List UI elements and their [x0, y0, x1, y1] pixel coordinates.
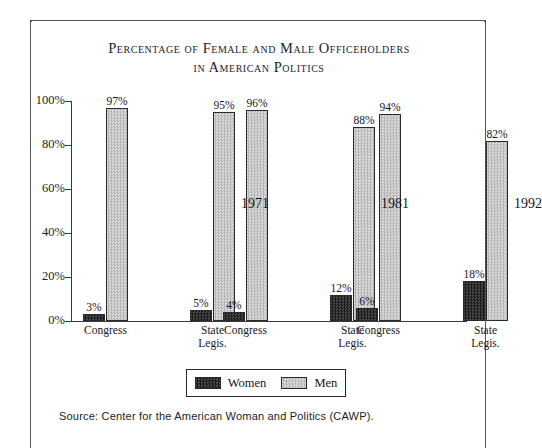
y-axis-tick-label: 100% [5, 93, 65, 108]
y-axis-tick [65, 101, 71, 102]
bar-women: 4% [223, 312, 245, 321]
y-axis-tick-label: 40% [5, 225, 65, 240]
bar-value-label: 97% [106, 95, 127, 107]
y-axis-tick [65, 321, 71, 322]
bar-value-label: 88% [353, 114, 374, 126]
y-axis-tick [65, 145, 71, 146]
y-axis-tick [65, 277, 71, 278]
x-axis-category-label: State Legis. [446, 324, 526, 350]
bar-value-label: 3% [86, 301, 101, 313]
bar-women: 3% [83, 314, 105, 321]
x-axis-category-label: Congress [66, 324, 146, 337]
bar-women: 5% [190, 310, 212, 321]
bar-women: 12% [330, 295, 352, 321]
legend-swatch-men [281, 377, 307, 389]
legend-label-women: Women [228, 376, 267, 391]
bar-value-label: 5% [193, 297, 208, 309]
y-axis-tick [65, 189, 71, 190]
bar-value-label: 4% [226, 299, 241, 311]
legend-label-men: Men [314, 376, 337, 391]
bar-value-label: 6% [359, 295, 374, 307]
bar-men: 88% [353, 127, 375, 321]
chart-frame: Percentage of Female and Male Officehold… [30, 20, 486, 448]
y-axis-line [71, 101, 72, 322]
bar-men: 97% [106, 108, 128, 321]
legend-item-men: Men [281, 376, 337, 391]
y-axis-tick [65, 233, 71, 234]
bar-women: 6% [356, 308, 378, 321]
bar-women: 18% [463, 281, 485, 321]
bar-men: 95% [213, 112, 235, 321]
bar-value-label: 96% [246, 97, 267, 109]
x-axis-category-label: Congress [339, 324, 419, 337]
chart-title: Percentage of Female and Male Officehold… [31, 39, 487, 77]
year-label: 1981 [381, 196, 409, 212]
y-axis-tick-label: 0% [5, 313, 65, 328]
bar-value-label: 12% [330, 282, 351, 294]
legend-swatch-women [195, 377, 221, 389]
x-axis-category-label: Congress [206, 324, 286, 337]
bar-value-label: 18% [463, 268, 484, 280]
bar-men: 82% [486, 141, 508, 321]
legend-item-women: Women [195, 376, 267, 391]
year-label: 1971 [241, 196, 269, 212]
plot-area: 100%80%60%40%20%0% 3%97%5%95%4%96%12%88%… [71, 101, 467, 321]
bar-value-label: 82% [486, 128, 507, 140]
x-axis-line [71, 321, 467, 322]
frame-corner-dot-top-right [484, 20, 486, 22]
source-note: Source: Center for the American Woman an… [59, 410, 374, 422]
chart-title-line-1: Percentage of Female and Male Officehold… [108, 40, 410, 56]
year-label: 1992 [514, 196, 542, 212]
y-axis-tick-label: 80% [5, 137, 65, 152]
frame-corner-dot-top-left [30, 20, 32, 22]
chart-title-line-2: in American Politics [31, 58, 487, 77]
bar-men: 94% [379, 114, 401, 321]
bar-value-label: 94% [379, 101, 400, 113]
y-axis-tick-label: 20% [5, 269, 65, 284]
chart-legend: Women Men [186, 369, 346, 397]
y-axis-tick-label: 60% [5, 181, 65, 196]
bar-value-label: 95% [213, 99, 234, 111]
bar-men: 96% [246, 110, 268, 321]
